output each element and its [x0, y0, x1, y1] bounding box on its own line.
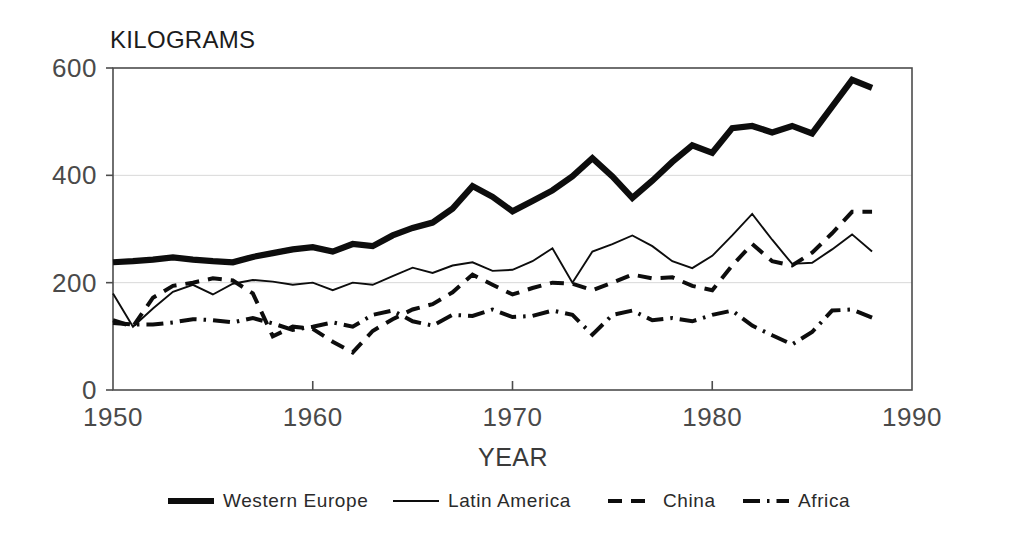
- y-tick-label-200: 200: [52, 268, 97, 298]
- x-tick-label-1970: 1970: [483, 402, 543, 432]
- y-tick-label-600: 600: [52, 53, 97, 83]
- legend-label-western-europe: Western Europe: [223, 490, 368, 511]
- legend-label-china: China: [663, 490, 716, 511]
- chart-figure: 600 400 200 0 1950 1960 1970 1980 1990 K…: [0, 0, 1013, 549]
- x-axis-title: YEAR: [478, 443, 548, 471]
- legend-label-latin-america: Latin America: [448, 490, 571, 511]
- y-axis-unit-title: KILOGRAMS: [110, 26, 255, 53]
- x-tick-label-1980: 1980: [682, 402, 742, 432]
- y-tick-label-400: 400: [52, 160, 97, 190]
- line-chart-svg: 600 400 200 0 1950 1960 1970 1980 1990 K…: [0, 0, 1013, 549]
- x-tick-label-1960: 1960: [283, 402, 343, 432]
- x-tick-label-1950: 1950: [83, 402, 143, 432]
- legend-label-africa: Africa: [798, 490, 850, 511]
- y-tick-label-0: 0: [82, 375, 97, 405]
- x-tick-label-1990: 1990: [882, 402, 942, 432]
